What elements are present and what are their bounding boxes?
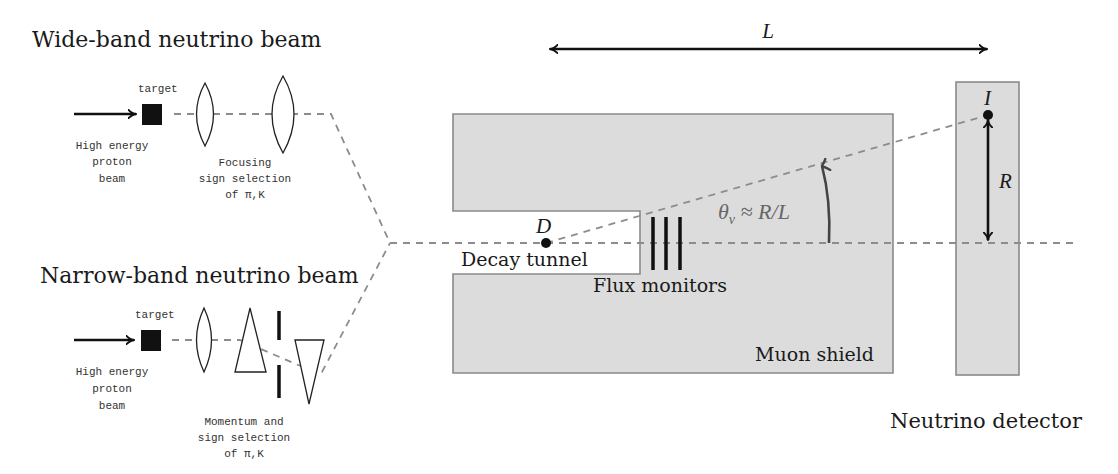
wide-band-proton-label-line-2: proton [92,156,132,168]
wide-band-beamline: Wide-band neutrino beam target High ener… [32,27,390,243]
target-block-icon [142,104,162,125]
interaction-point-label: I [983,86,992,110]
wide-band-optics-label-line-2: sign selection [199,173,291,185]
wide-band-proton-label-line-1: High energy [76,140,149,152]
decay-point-marker-icon [541,238,551,248]
focusing-lens-1-icon [197,83,214,146]
narrow-band-proton-label-line-2: proton [92,383,132,395]
narrow-band-beamline: Narrow-band neutrino beam target High en… [40,243,390,460]
wide-band-target-label: target [138,83,178,95]
neutrino-detector-label: Neutrino detector [890,409,1083,433]
narrow-band-proton-label-line-3: beam [99,400,126,412]
interaction-point-marker-icon [983,110,993,120]
narrow-band-optics-label-line-3: of π,K [224,448,264,460]
wide-band-optics-label-line-1: Focusing [219,157,272,169]
length-label: L [761,19,774,43]
narrow-band-optics-label-line-2: sign selection [198,432,290,444]
narrow-band-title: Narrow-band neutrino beam [40,263,359,288]
dipole-prism-2-icon [295,340,324,404]
flux-monitors-label: Flux monitors [593,274,727,296]
focusing-lens-icon [197,308,212,372]
radius-label: R [998,169,1012,193]
wide-band-title: Wide-band neutrino beam [32,27,322,52]
decay-tunnel-label: Decay tunnel [461,248,588,270]
narrow-band-optics-label-line-1: Momentum and [204,416,283,428]
wide-band-optics-label-line-3: of π,K [225,189,265,201]
muon-shield-label: Muon shield [755,343,874,365]
muon-shield-block [453,114,893,373]
narrow-band-target-label: target [135,309,175,321]
neutrino-detector: Neutrino detector [890,82,1083,433]
narrow-band-proton-label-line-1: High energy [76,366,149,378]
wide-band-proton-label-line-3: beam [99,173,126,185]
muon-shield: Muon shield [453,114,893,373]
angle-label: θν ≈ R/L [718,199,790,227]
neutrino-beam-diagram: Wide-band neutrino beam target High ener… [0,0,1118,474]
decay-point-label: D [535,214,551,238]
focusing-lens-2-icon [272,76,294,153]
target-block-icon [141,330,161,351]
